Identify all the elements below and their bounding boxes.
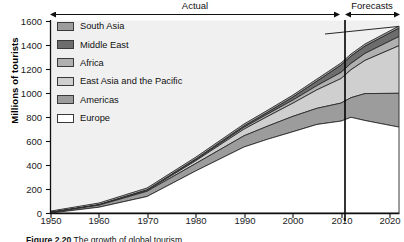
y-tick-marks (46, 22, 51, 214)
y-tick: 600 (8, 137, 42, 147)
legend-label: East Asia and the Pacific (80, 76, 182, 86)
legend-label: South Asia (80, 21, 124, 31)
figure-caption: Figure 2.20 The growth of global tourism (26, 235, 404, 242)
y-tick: 1000 (8, 89, 42, 99)
chart-legend: South Asia Middle East Africa East Asia … (57, 17, 237, 127)
y-tick: 400 (8, 161, 42, 171)
legend-item-middle-east[interactable]: Middle East (57, 35, 237, 53)
legend-item-east-asia-pacific[interactable]: East Asia and the Pacific (57, 72, 237, 90)
annotation-1-6-bn: 1.6 bn (296, 30, 322, 41)
figure-caption-text: The growth of global tourism (74, 235, 182, 242)
y-tick: 1200 (8, 65, 42, 75)
legend-item-africa[interactable]: Africa (57, 54, 237, 72)
y-tick: 200 (8, 185, 42, 195)
x-tick: 1970 (128, 216, 168, 226)
legend-label: Americas (80, 95, 119, 105)
legend-swatch-icon (57, 22, 74, 31)
x-tick: 2010 (322, 216, 362, 226)
y-tick: 1600 (8, 17, 42, 27)
x-tick: 1960 (79, 216, 119, 226)
figure-global-tourism: Actual Forecasts Millions of tourists 16… (0, 0, 404, 242)
x-axis-ticks: 1950 1960 1970 1980 1990 2000 2010 2020 (0, 216, 404, 230)
legend-swatch-icon (57, 58, 74, 67)
legend-item-americas[interactable]: Americas (57, 91, 237, 109)
x-tick: 2020 (370, 216, 404, 226)
legend-label: Middle East (80, 40, 129, 50)
y-tick: 1400 (8, 41, 42, 51)
x-tick: 2000 (273, 216, 313, 226)
x-tick: 1990 (225, 216, 265, 226)
series-band-europe (51, 117, 399, 213)
legend-item-south-asia[interactable]: South Asia (57, 17, 237, 35)
forecasts-span-label: Forecasts (340, 0, 404, 11)
figure-caption-number: Figure 2.20 (26, 235, 71, 242)
y-tick: 800 (8, 113, 42, 123)
legend-item-europe[interactable]: Europe (57, 109, 237, 127)
annotation-leader-line (325, 27, 398, 35)
legend-swatch-icon (57, 40, 74, 49)
x-tick: 1950 (31, 216, 71, 226)
x-tick: 1980 (176, 216, 216, 226)
legend-label: Africa (80, 58, 104, 68)
legend-swatch-icon (57, 114, 74, 123)
legend-label: Europe (80, 113, 110, 123)
y-axis-ticks: 1600 1400 1200 1000 800 600 400 200 0 (8, 0, 42, 242)
actual-span-label: Actual (150, 0, 240, 11)
legend-swatch-icon (57, 95, 74, 104)
legend-swatch-icon (57, 77, 74, 86)
